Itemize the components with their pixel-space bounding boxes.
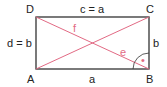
side-bottom-label: a <box>89 73 96 85</box>
diagonal-e-label: e <box>120 46 126 58</box>
side-left-label: d = b <box>7 37 32 49</box>
diagonal-f-label: f <box>73 22 77 34</box>
vertex-a-label: A <box>27 73 35 85</box>
angle-mark: • <box>141 54 145 66</box>
vertex-d-label: D <box>26 3 34 15</box>
side-top-label: c = a <box>80 3 105 15</box>
vertex-b-label: B <box>146 73 153 85</box>
rectangle-diagram: • D C A B c = a a d = b b f e <box>0 0 167 87</box>
vertex-c-label: C <box>146 3 154 15</box>
side-right-label: b <box>153 37 159 49</box>
